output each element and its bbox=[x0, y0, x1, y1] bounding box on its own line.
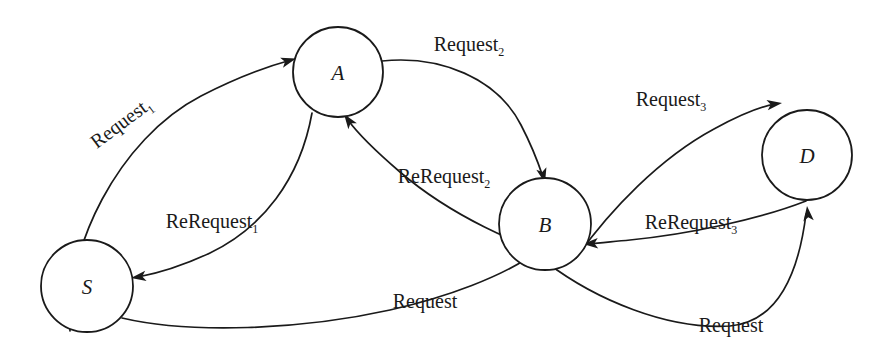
edge-s-to-b-request bbox=[122, 250, 537, 328]
edge-label-subscript: 3 bbox=[700, 100, 706, 114]
edge-label-b-to-d-request-bottom: Request bbox=[699, 314, 764, 337]
edge-label-a-to-b-request2: Request2 bbox=[434, 33, 504, 59]
node-label-A: A bbox=[330, 61, 345, 85]
edge-label-subscript: 2 bbox=[484, 177, 490, 191]
edge-label-d-to-b-rerequest3: ReRequest3 bbox=[645, 211, 738, 237]
edge-label-subscript: 1 bbox=[252, 222, 258, 236]
edge-path bbox=[382, 60, 543, 177]
arrow-head-icon bbox=[802, 205, 814, 221]
arrow-head-icon bbox=[766, 98, 782, 110]
edge-label-subscript: 3 bbox=[731, 223, 737, 237]
edge-a-to-s-rerequest1 bbox=[130, 113, 312, 283]
node-B[interactable]: B bbox=[499, 178, 591, 270]
edge-path bbox=[138, 113, 312, 277]
edge-labels-layer: Request1ReRequest1RequestRequest2ReReque… bbox=[86, 33, 764, 337]
edge-path bbox=[122, 258, 528, 328]
node-A[interactable]: A bbox=[293, 27, 383, 117]
edge-label-subscript: 2 bbox=[498, 45, 504, 59]
edge-label-subscript: 1 bbox=[145, 102, 158, 117]
edge-label-s-to-b-request: Request bbox=[393, 290, 458, 313]
state-diagram: SABD Request1ReRequest1RequestRequest2Re… bbox=[0, 0, 880, 360]
node-S[interactable]: S bbox=[41, 240, 133, 332]
edge-label-b-to-a-rerequest2: ReRequest2 bbox=[398, 165, 491, 191]
edge-label-b-to-d-request3: Request3 bbox=[636, 88, 706, 114]
graph-canvas: SABD Request1ReRequest1RequestRequest2Re… bbox=[0, 0, 880, 360]
node-D[interactable]: D bbox=[762, 110, 852, 200]
node-label-B: B bbox=[539, 213, 552, 237]
node-label-S: S bbox=[82, 275, 93, 299]
node-label-D: D bbox=[798, 144, 814, 168]
edge-label-s-to-a-request1: Request1 bbox=[86, 92, 158, 155]
